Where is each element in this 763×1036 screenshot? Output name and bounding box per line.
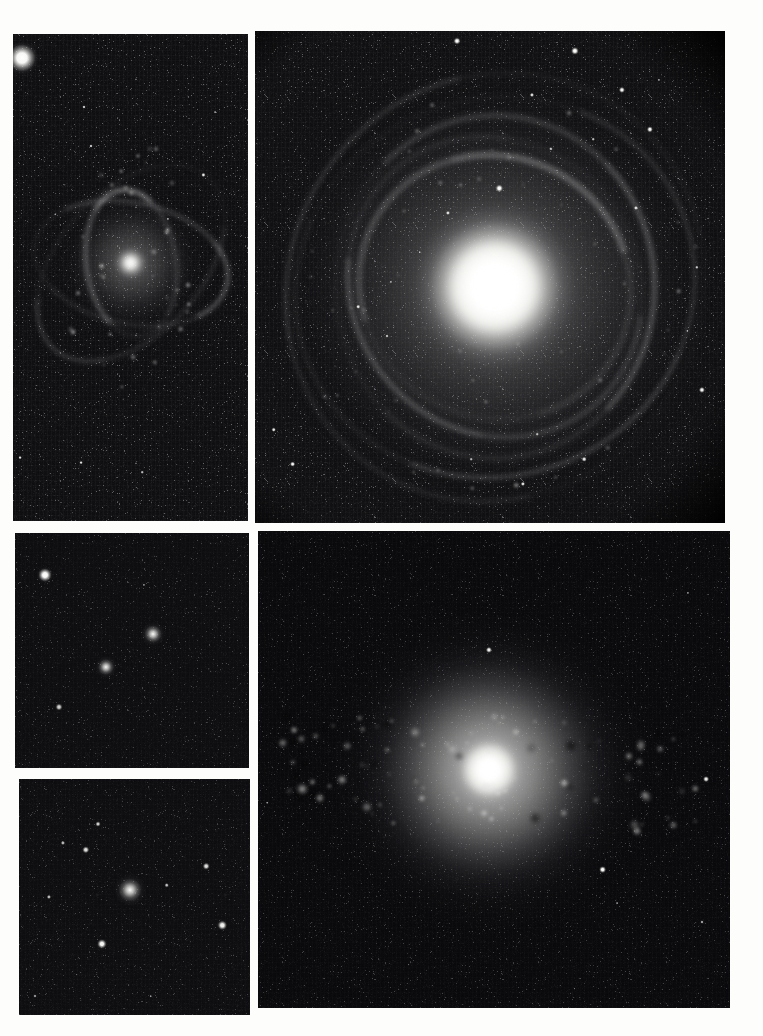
star-point-source	[164, 882, 170, 888]
galaxy-hii-knot	[108, 332, 113, 337]
galaxy-hii-knot	[676, 288, 683, 295]
galaxy-hii-knot	[662, 351, 667, 356]
top-left-field-panel	[13, 34, 248, 521]
galaxy-hii-knot	[341, 741, 354, 751]
galaxy-hii-knot	[660, 391, 663, 394]
galaxy-hii-knot	[639, 790, 651, 800]
star-point-source	[266, 801, 270, 805]
galaxy-hii-knot	[517, 418, 520, 421]
galaxy-hii-knot	[308, 779, 317, 786]
galaxy-hii-knot	[384, 747, 391, 754]
galaxy-hii-knot	[98, 171, 106, 179]
galaxy-hii-knot	[559, 808, 570, 817]
galaxy-hii-knot	[596, 739, 602, 744]
galaxy-hii-knot	[628, 818, 641, 831]
mid-left-field-panel	[15, 533, 249, 768]
galaxy-hii-knot	[484, 363, 488, 367]
galaxy-hii-knot	[350, 306, 353, 309]
galaxy-hii-knot	[164, 227, 171, 234]
galaxy-hii-knot	[395, 272, 400, 277]
galaxy-hii-knot	[75, 290, 81, 296]
galaxy-hii-knot	[144, 160, 148, 164]
galaxy-hii-knot	[624, 773, 634, 783]
galaxy-hii-knot	[184, 282, 191, 289]
star-point-source	[535, 433, 539, 437]
galaxy-hii-knot	[458, 182, 464, 188]
galaxy-hii-knot	[103, 364, 106, 367]
galaxy-hii-knot	[666, 328, 670, 332]
star-point-source	[123, 398, 125, 400]
galaxy-hii-knot	[506, 153, 513, 160]
bright-star-point-source	[37, 567, 53, 583]
galaxy-hii-knot	[487, 225, 490, 228]
galaxy-hii-knot	[402, 209, 406, 213]
galaxy-hii-knot	[592, 796, 600, 803]
galaxy-hii-knot	[436, 468, 441, 473]
galaxy-hii-knot	[487, 751, 491, 754]
star-point-source	[158, 320, 160, 322]
galaxy-hii-knot	[623, 751, 633, 760]
astronomical-image-plate	[0, 0, 763, 1036]
star-point-source	[469, 457, 473, 461]
galaxy-hii-knot	[620, 181, 623, 184]
central-compact-galaxy-point-source	[114, 874, 146, 906]
galaxy-hii-knot	[654, 745, 667, 753]
star-point-source	[79, 460, 84, 465]
galaxy-hii-knot	[386, 771, 392, 777]
galaxy-hii-knot	[510, 727, 521, 736]
galaxy-hii-knot	[693, 244, 700, 251]
galaxy-hii-knot	[463, 741, 470, 746]
star-point-source	[385, 334, 389, 338]
galaxy-hii-knot	[411, 470, 416, 475]
galaxy-hii-knot	[329, 723, 338, 729]
galaxy-hii-knot	[509, 774, 520, 781]
galaxy-hii-knot	[289, 726, 300, 734]
galaxy-hii-knot	[174, 288, 179, 293]
star-point-source	[306, 217, 308, 219]
star-point-source	[95, 821, 101, 827]
galaxy-hii-knot	[550, 758, 554, 763]
galaxy-hii-knot	[691, 784, 699, 793]
galaxy-hii-knot	[458, 349, 462, 353]
compact-galaxy-a-point-source	[141, 622, 165, 646]
bottom-left-field-panel	[19, 779, 250, 1015]
galaxy-hii-knot	[326, 784, 333, 789]
star-point-source	[592, 137, 596, 141]
star-point-source	[224, 340, 226, 342]
star-point-source	[615, 902, 618, 905]
galaxy-hii-knot	[692, 819, 698, 824]
star-point-source	[82, 105, 86, 109]
galaxy-hii-knot	[169, 180, 176, 187]
bottom-right-field-panel	[258, 531, 730, 1008]
galaxy-hii-knot	[554, 475, 559, 480]
top-right-field-panel	[255, 31, 725, 523]
galaxy-hii-knot	[388, 718, 395, 725]
galaxy-hii-knot	[529, 794, 532, 797]
galaxy-hii-knot	[175, 303, 179, 307]
galaxy-hii-knot	[678, 787, 688, 796]
galaxy-hii-knot	[312, 732, 320, 740]
galaxy-hii-knot	[153, 146, 159, 152]
galaxy-hii-knot	[566, 109, 573, 116]
galaxy-hii-knot	[466, 730, 476, 737]
star-point-source	[334, 365, 336, 367]
galaxy-hii-knot	[157, 325, 161, 329]
star-point-source	[700, 920, 704, 924]
galaxy-hii-knot	[370, 813, 374, 816]
star-point-source	[289, 461, 296, 468]
star-point-source	[581, 456, 587, 462]
galaxy-hii-knot	[370, 253, 373, 256]
star-point-source	[418, 251, 422, 255]
galaxy-hii-knot	[330, 308, 335, 313]
galaxy-hii-knot	[521, 182, 527, 188]
galaxy-hii-knot	[130, 354, 137, 361]
galaxy-hii-knot	[476, 176, 483, 183]
galaxy-hii-knot	[429, 102, 435, 108]
star-point-source	[202, 863, 210, 871]
star-point-source	[33, 994, 37, 998]
star-point-source	[149, 994, 153, 998]
star-point-source	[89, 144, 93, 148]
galaxy-hii-knot	[352, 796, 359, 802]
galaxy-hii-knot	[667, 821, 679, 830]
galaxy-hii-knot	[364, 764, 369, 768]
